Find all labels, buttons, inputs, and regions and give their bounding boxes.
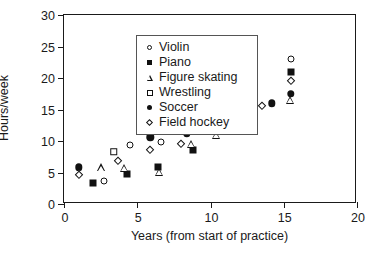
x-tick: 5 — [137, 202, 138, 208]
circle-filled-icon — [143, 101, 156, 114]
y-tick: 25 — [58, 47, 64, 48]
y-tick: 10 — [58, 141, 64, 142]
x-tick-label: 15 — [278, 212, 292, 225]
legend-item-field-hockey: Field hockey — [143, 115, 252, 130]
legend-item-wrestling: Wrestling — [143, 85, 252, 100]
legend-item-figure-skating: Figure skating — [143, 70, 252, 85]
x-tick-label: 10 — [205, 212, 219, 225]
y-tick: 20 — [58, 78, 64, 79]
legend-marker-glyph — [147, 45, 153, 51]
y-tick: 5 — [58, 173, 64, 174]
legend-label: Piano — [159, 56, 191, 69]
diamond-open-icon — [143, 116, 156, 129]
data-point-piano — [123, 171, 130, 178]
y-tick-label: 25 — [41, 41, 55, 54]
legend-label: Figure skating — [159, 71, 238, 84]
data-point-violin — [100, 177, 107, 184]
data-point-field-hockey — [74, 171, 83, 180]
square-open-icon — [143, 86, 156, 99]
data-point-figure-skating — [155, 168, 163, 176]
y-axis-title: Hours/week — [0, 75, 11, 141]
legend-label: Wrestling — [159, 86, 211, 99]
data-point-violin — [126, 142, 133, 149]
data-point-field-hockey — [114, 157, 123, 166]
y-tick: 15 — [58, 110, 64, 111]
y-axis-title-text: Hours/week — [0, 75, 11, 141]
data-point-wrestling — [110, 148, 118, 156]
legend-marker-glyph — [147, 105, 153, 111]
data-point-figure-skating — [120, 164, 128, 172]
chart-legend: ViolinPianoFigure skatingWrestlingSoccer… — [136, 35, 258, 135]
y-tick-label: 0 — [48, 199, 55, 212]
legend-marker-glyph — [147, 60, 153, 66]
data-point-piano — [189, 146, 196, 153]
data-point-field-hockey — [257, 102, 266, 111]
legend-item-piano: Piano — [143, 55, 252, 70]
y-tick-label: 30 — [41, 10, 55, 23]
legend-label: Violin — [159, 41, 189, 54]
plot-area: 051015202530 05101520 ViolinPianoFigure … — [63, 14, 356, 203]
data-point-field-hockey — [177, 139, 186, 148]
legend-label: Soccer — [159, 101, 198, 114]
legend-item-violin: Violin — [143, 40, 252, 55]
data-point-figure-skating — [97, 163, 105, 171]
y-tick-label: 20 — [41, 73, 55, 86]
circle-open-icon — [143, 41, 156, 54]
data-point-soccer — [268, 99, 275, 106]
y-tick-label: 10 — [41, 136, 55, 149]
legend-marker-glyph — [146, 119, 153, 126]
data-point-field-hockey — [146, 145, 155, 154]
scatter-chart-figure: Hours/week Years (from start of practice… — [0, 0, 379, 259]
data-point-soccer — [287, 90, 294, 97]
x-tick-label: 20 — [351, 212, 365, 225]
data-point-violin — [157, 138, 164, 145]
data-point-field-hockey — [287, 76, 296, 85]
x-tick: 15 — [284, 202, 285, 208]
data-point-piano — [154, 163, 161, 170]
legend-marker-glyph — [147, 90, 153, 96]
legend-marker-glyph — [147, 75, 153, 81]
data-point-violin — [288, 56, 295, 63]
x-axis-title: Years (from start of practice) — [63, 229, 356, 243]
data-point-piano — [288, 69, 295, 76]
x-tick: 10 — [211, 202, 212, 208]
square-filled-icon — [143, 56, 156, 69]
data-point-soccer — [75, 164, 82, 171]
x-tick-label: 5 — [135, 212, 142, 225]
x-tick: 20 — [357, 202, 358, 208]
triangle-open-icon — [143, 71, 156, 84]
x-tick-label: 0 — [62, 212, 69, 225]
data-point-figure-skating — [187, 140, 195, 148]
data-point-figure-skating — [286, 96, 294, 104]
y-tick: 30 — [58, 15, 64, 16]
y-tick-label: 5 — [48, 167, 55, 180]
y-tick-label: 15 — [41, 104, 55, 117]
x-tick: 0 — [64, 202, 65, 208]
legend-item-soccer: Soccer — [143, 100, 252, 115]
data-point-piano — [90, 179, 97, 186]
legend-label: Field hockey — [159, 116, 229, 129]
